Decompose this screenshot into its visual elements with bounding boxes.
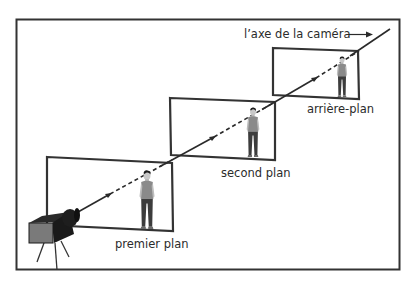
camera-icon: [29, 208, 80, 270]
label-premier-plan: premier plan: [115, 237, 189, 251]
label-second-plan: second plan: [221, 166, 291, 180]
axis-label: l’axe de la caméra: [244, 27, 350, 41]
camera-axis-diagram: l’axe de la caméra premier plan second p…: [0, 0, 415, 285]
label-arriere-plan: arrière-plan: [307, 102, 374, 116]
diagram-canvas: l’axe de la caméra premier plan second p…: [0, 0, 415, 285]
arrow-right-icon: [348, 32, 373, 38]
